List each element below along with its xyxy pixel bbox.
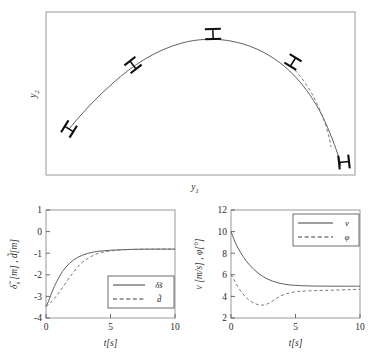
errors-svg: 1 0 -1 -2 -3 -4 0 5 10: [0, 196, 188, 356]
svg-text:0: 0: [229, 322, 234, 332]
vehicle-marker: [338, 155, 349, 170]
svg-text:y2: y2: [28, 90, 41, 99]
svg-text:2: 2: [222, 313, 227, 323]
errors-x-ticks: 0 5 10: [44, 314, 180, 332]
speeds-x-ticks: 0 5 10: [229, 314, 365, 332]
panel-trajectory: y1 y2: [0, 0, 373, 200]
speeds-ylabel: v [m/s] , φ[°]: [194, 238, 204, 289]
trajectory-svg: y1 y2: [0, 0, 373, 200]
svg-text:v [m/s] , φ[°]: v [m/s] , φ[°]: [194, 238, 204, 289]
vehicle-marker: [124, 57, 141, 73]
speeds-legend-label-v: v: [345, 218, 349, 228]
svg-text:5: 5: [293, 322, 298, 332]
svg-text:δ̃s [m] , d̃[m]: δ̃s [m] , d̃[m]: [7, 239, 21, 289]
svg-text:10: 10: [355, 322, 365, 332]
svg-text:10: 10: [218, 227, 228, 237]
svg-text:1: 1: [37, 205, 42, 215]
svg-text:4: 4: [222, 292, 227, 302]
panel-errors: 1 0 -1 -2 -3 -4 0 5 10: [0, 196, 188, 356]
speeds-y-ticks: 12 10 8 6 4 2: [218, 205, 236, 323]
trajectory-actual-path: [69, 39, 341, 166]
errors-legend-label-delta: δ̃s: [155, 280, 163, 290]
svg-text:8: 8: [222, 249, 227, 259]
trajectory-ylabel: y2: [28, 90, 41, 99]
trajectory-xlabel: y1: [190, 182, 199, 195]
svg-text:6: 6: [222, 270, 227, 280]
svg-text:-4: -4: [34, 313, 42, 323]
vehicle-marker: [61, 120, 77, 137]
panel-speeds: 12 10 8 6 4 2 0 5 10: [185, 196, 373, 356]
speeds-legend-label-phi: φ: [345, 232, 350, 242]
svg-text:0: 0: [37, 227, 42, 237]
speeds-svg: 12 10 8 6 4 2 0 5 10: [185, 196, 373, 356]
vehicle-marker: [205, 29, 221, 40]
svg-text:y1: y1: [190, 182, 199, 195]
errors-ylabel: δ̃s [m] , d̃[m]: [7, 239, 21, 289]
speeds-xlabel: t[s]: [289, 338, 303, 348]
speeds-series-phi: [231, 274, 360, 305]
svg-text:-1: -1: [34, 249, 42, 259]
svg-text:-2: -2: [34, 270, 42, 280]
svg-text:5: 5: [108, 322, 113, 332]
svg-text:-3: -3: [34, 292, 42, 302]
svg-text:12: 12: [218, 205, 228, 215]
svg-text:10: 10: [170, 322, 180, 332]
svg-text:0: 0: [44, 322, 49, 332]
speeds-legend: v φ: [293, 214, 359, 246]
vehicle-marker: [284, 54, 301, 70]
errors-xlabel: t[s]: [104, 338, 118, 348]
errors-legend: δ̃s d̃: [108, 276, 174, 308]
figure-root: y1 y2 1 0 -1: [0, 0, 373, 356]
